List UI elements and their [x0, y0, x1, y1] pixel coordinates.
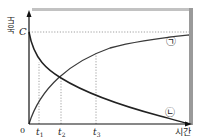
- curve-a-label: ㉠: [166, 37, 176, 47]
- t3-subscript: 3: [97, 131, 101, 138]
- chart-canvas: [0, 0, 209, 140]
- t2-subscript: 2: [62, 131, 66, 138]
- x-axis-label: 시간: [175, 128, 191, 137]
- t1-subscript: 1: [40, 131, 44, 138]
- frame-top: [32, 8, 193, 11]
- t1-label: t1: [36, 128, 43, 138]
- frame-right: [189, 8, 193, 125]
- t3-label: t3: [93, 128, 100, 138]
- c-label: C: [19, 27, 27, 37]
- y-axis-label: 농도: [7, 16, 16, 34]
- t2-label: t2: [58, 128, 65, 138]
- origin-label: 0: [20, 127, 25, 135]
- curve-b-label: ㉡: [165, 108, 175, 118]
- y-axis-arrow-icon: [27, 10, 32, 17]
